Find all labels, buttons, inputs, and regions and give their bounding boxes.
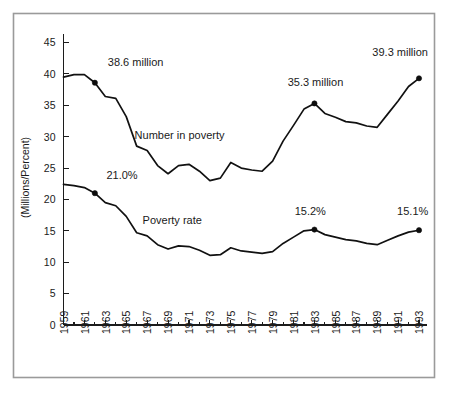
x-tick-label: 1987 xyxy=(350,310,362,334)
y-tick-label: 20 xyxy=(44,193,56,205)
series-label-1: Number in poverty xyxy=(135,129,225,141)
annotation-label-4: 15.2% xyxy=(295,205,326,217)
x-tick-label: 1983 xyxy=(309,310,321,334)
y-tick-label: 0 xyxy=(50,319,56,331)
series-line-2 xyxy=(64,184,420,255)
y-tick-label: 25 xyxy=(44,162,56,174)
annotation-label-1: 38.6 million xyxy=(108,56,164,68)
x-tick-label: 1969 xyxy=(162,310,174,334)
annotation-marker-3 xyxy=(312,101,317,106)
x-axis-ticks: 1959196119631965196719691971197319751977… xyxy=(58,310,426,334)
series-inline-labels: Number in povertyPoverty rate xyxy=(135,129,225,226)
y-tick-label: 10 xyxy=(44,256,56,268)
y-axis-title: (Millions/Percent) xyxy=(19,137,31,218)
x-tick-label: 1967 xyxy=(141,310,153,334)
x-tick-label: 1961 xyxy=(79,310,91,334)
series-label-2: Poverty rate xyxy=(143,214,202,226)
annotation-marker-2 xyxy=(92,191,97,196)
y-tick-label: 30 xyxy=(44,131,56,143)
y-tick-label: 35 xyxy=(44,99,56,111)
annotation-marker-4 xyxy=(312,227,317,232)
annotation-label-3: 35.3 million xyxy=(288,76,344,88)
x-tick-label: 1965 xyxy=(120,310,132,334)
poverty-chart-figure: 051015202530354045 195919611963196519671… xyxy=(0,0,449,396)
x-tick-label: 1979 xyxy=(267,310,279,334)
x-tick-label: 1963 xyxy=(100,310,112,334)
annotation-label-5: 39.3 million xyxy=(372,46,428,58)
y-tick-label: 5 xyxy=(50,287,56,299)
x-tick-label: 1981 xyxy=(288,310,300,334)
y-axis-ticks: 051015202530354045 xyxy=(44,36,69,330)
x-tick-label: 1977 xyxy=(246,310,258,334)
x-tick-label: 1985 xyxy=(330,310,342,334)
x-tick-label: 1991 xyxy=(392,310,404,334)
y-tick-label: 45 xyxy=(44,36,56,48)
series-paths xyxy=(64,75,420,256)
series-line-1 xyxy=(64,75,420,181)
x-tick-label: 1989 xyxy=(371,310,383,334)
x-tick-label: 1993 xyxy=(413,310,425,334)
annotation-marker-6 xyxy=(416,228,421,233)
annotation-marker-1 xyxy=(92,80,97,85)
x-tick-label: 1975 xyxy=(225,310,237,334)
chart-canvas: 051015202530354045 195919611963196519671… xyxy=(0,0,449,396)
annotation-label-2: 21.0% xyxy=(106,169,137,181)
annotation-marker-5 xyxy=(416,76,421,81)
x-tick-label: 1973 xyxy=(204,310,216,334)
x-tick-label: 1971 xyxy=(183,310,195,334)
annotation-label-6: 15.1% xyxy=(397,205,428,217)
y-tick-label: 40 xyxy=(44,68,56,80)
y-tick-label: 15 xyxy=(44,225,56,237)
